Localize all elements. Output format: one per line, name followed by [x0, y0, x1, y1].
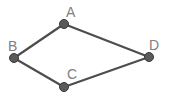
label-b: B: [8, 38, 17, 54]
label-c: C: [67, 66, 77, 82]
edge-b-c: [14, 58, 64, 87]
node-c: [60, 83, 69, 92]
edge-b-a: [14, 24, 64, 58]
labels: A B C D: [8, 4, 159, 82]
edges: [14, 24, 149, 87]
graph-diagram: A B C D: [0, 0, 171, 99]
label-a: A: [66, 4, 76, 20]
node-a: [60, 20, 69, 29]
label-d: D: [149, 37, 159, 53]
node-b: [10, 54, 19, 63]
edge-a-d: [64, 24, 149, 57]
node-d: [145, 53, 154, 62]
